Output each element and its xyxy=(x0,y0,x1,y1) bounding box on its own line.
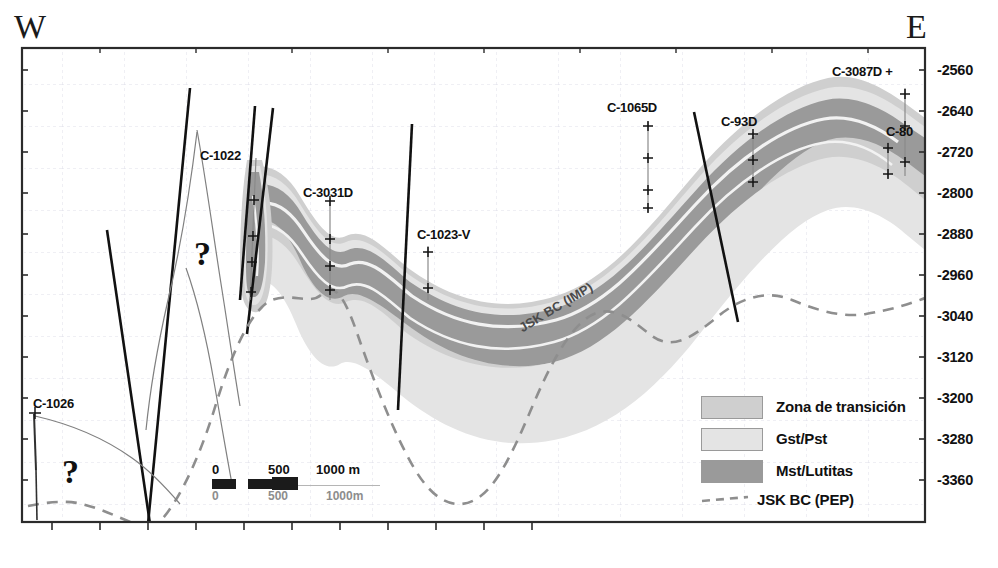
legend-swatch-mst-lutitas xyxy=(701,460,763,483)
question-mark-left: ? xyxy=(62,455,79,489)
depth-label-2: -2720 xyxy=(937,144,973,160)
well-label-c-3087d: C-3087D + xyxy=(832,64,893,79)
legend-label-zona-transicion: Zona de transición xyxy=(776,398,906,415)
legend-label-mst-lutitas: Mst/Lutitas xyxy=(776,462,853,479)
legend-swatch-zona-transicion xyxy=(701,396,763,419)
question-mark-center: ? xyxy=(194,237,211,271)
well-label-c-93d: C-93D xyxy=(721,114,757,129)
scale-top-label-0: 0 xyxy=(212,462,219,477)
section-canvas xyxy=(0,0,998,568)
scale-top-label-1: 500 xyxy=(268,462,290,477)
well-label-c-3031d: C-3031D xyxy=(303,185,353,200)
legend-label-gst-pst: Gst/Pst xyxy=(776,430,827,447)
cross-section-figure: W E xyxy=(0,0,998,568)
depth-label-4: -2880 xyxy=(937,226,973,242)
well-label-c-80: C-80 xyxy=(886,124,913,139)
scale-top-label-2: 1000 m xyxy=(316,462,360,477)
well-label-c-1026: C-1026 xyxy=(33,396,74,411)
legend-label-jsk-bc-pep: JSK BC (PEP) xyxy=(757,491,854,508)
depth-label-8: -3200 xyxy=(937,390,973,406)
well-label-c-1022: C-1022 xyxy=(200,148,241,163)
well-trace-c1026-lower xyxy=(36,470,37,520)
depth-label-10: -3360 xyxy=(937,472,973,488)
legend-swatch-gst-pst xyxy=(701,428,763,451)
scale-bottom-label-1: 500 xyxy=(268,489,288,503)
well-label-c-1065d: C-1065D xyxy=(607,100,657,115)
scale-block-2 xyxy=(248,479,272,489)
depth-label-7: -3120 xyxy=(937,349,973,365)
well-label-c-1023-v: C-1023-V xyxy=(417,227,470,242)
depth-label-5: -2960 xyxy=(937,267,973,283)
scale-bottom-label-2: 1000m xyxy=(326,489,363,503)
depth-label-6: -3040 xyxy=(937,308,973,324)
depth-label-3: -2800 xyxy=(937,185,973,201)
bottom-axis-ticks xyxy=(52,522,532,530)
scale-bottom-label-0: 0 xyxy=(212,489,219,503)
depth-label-9: -3280 xyxy=(937,431,973,447)
scale-block-1 xyxy=(212,479,236,489)
scale-rule-line xyxy=(298,485,380,486)
depth-label-1: -2640 xyxy=(937,103,973,119)
depth-label-0: -2560 xyxy=(937,62,973,78)
